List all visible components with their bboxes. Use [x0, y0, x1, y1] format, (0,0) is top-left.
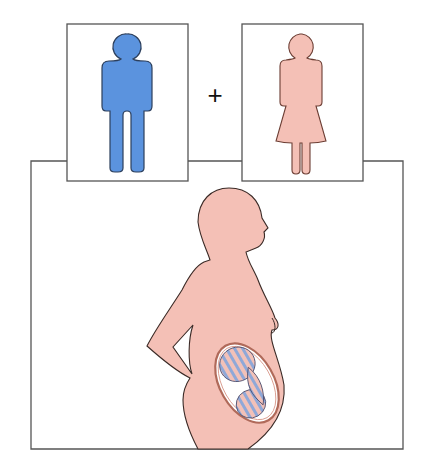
female-panel: [242, 24, 363, 181]
male-panel: [67, 24, 188, 181]
conception-diagram: +: [0, 0, 425, 476]
plus-operator: +: [207, 80, 222, 110]
